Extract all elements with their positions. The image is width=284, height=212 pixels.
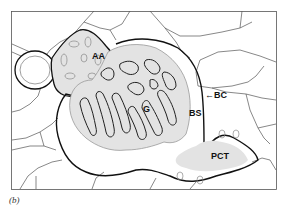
label-pct: PCT [211, 152, 229, 161]
panel-label: (b) [9, 196, 20, 205]
label-bs: BS [189, 109, 202, 118]
label-bc-text: BC [214, 90, 227, 100]
label-g: G [143, 105, 150, 114]
renal-corpuscle-diagram [0, 0, 284, 212]
label-aa: AA [92, 52, 105, 61]
arteriole-vessel [15, 51, 55, 89]
arrow-left-icon: ← [205, 90, 214, 100]
label-bc: ←BC [205, 91, 227, 100]
